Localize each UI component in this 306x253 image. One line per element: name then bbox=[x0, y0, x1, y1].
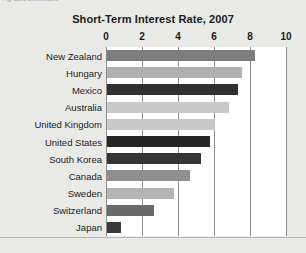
gridline-8 bbox=[250, 47, 251, 236]
category-label: Australia bbox=[65, 102, 102, 113]
category-label: Sweden bbox=[68, 188, 102, 199]
bar bbox=[107, 153, 201, 164]
bar bbox=[107, 170, 190, 181]
chart-title: Short-Term Interest Rate, 2007 bbox=[0, 13, 306, 25]
category-label: Japan bbox=[76, 222, 102, 233]
x-tick-label-2: 2 bbox=[139, 31, 145, 42]
category-label: Switzerland bbox=[53, 205, 102, 216]
gridline-10 bbox=[286, 47, 287, 236]
category-label: Mexico bbox=[72, 84, 102, 95]
figure-bottom-rule bbox=[0, 237, 306, 238]
category-label: South Korea bbox=[49, 153, 102, 164]
plot-area bbox=[106, 47, 287, 236]
bar bbox=[107, 119, 215, 130]
bar bbox=[107, 102, 229, 113]
chart-figure: Short-Term Interest Rate, 2007 0246810 N… bbox=[0, 0, 306, 253]
bar bbox=[107, 84, 238, 95]
x-tick-label-6: 6 bbox=[211, 31, 217, 42]
x-tick-label-10: 10 bbox=[280, 31, 291, 42]
bar bbox=[107, 50, 255, 61]
category-label: Hungary bbox=[66, 67, 102, 78]
category-label: United Kingdom bbox=[34, 119, 102, 130]
bar bbox=[107, 136, 210, 147]
x-tick-label-8: 8 bbox=[247, 31, 253, 42]
x-axis-tick-labels: 0246810 bbox=[0, 31, 306, 45]
bar bbox=[107, 222, 121, 233]
category-label: United States bbox=[45, 136, 102, 147]
y-axis-category-labels: New ZealandHungaryMexicoAustraliaUnited … bbox=[0, 47, 102, 236]
bar bbox=[107, 205, 154, 216]
x-tick-label-0: 0 bbox=[103, 31, 109, 42]
bar bbox=[107, 188, 174, 199]
x-tick-label-4: 4 bbox=[175, 31, 181, 42]
category-label: Canada bbox=[69, 170, 102, 181]
bar bbox=[107, 67, 242, 78]
category-label: New Zealand bbox=[46, 50, 102, 61]
